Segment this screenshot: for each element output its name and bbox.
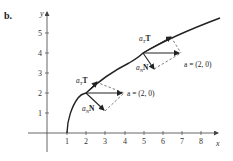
vector-group-point-2: aTT aNN a = (2, 0)	[136, 34, 212, 73]
y-axis-label: y	[39, 9, 44, 18]
acceleration-label-1: a = (2, 0)	[127, 89, 155, 98]
tangent-vector-1	[86, 82, 97, 93]
normal-label-1: aNN	[82, 104, 95, 114]
tangent-label-2: aTT	[139, 34, 151, 44]
vector-group-point-1: aTT aNN a = (2, 0)	[76, 76, 155, 114]
y-tick-2: 2	[38, 89, 42, 98]
x-tick-6: 6	[161, 137, 165, 146]
x-tick-1: 1	[65, 137, 69, 146]
tangent-label-1: aTT	[76, 76, 88, 86]
y-tick-3: 3	[38, 69, 42, 78]
panel-label: b.	[4, 10, 13, 21]
x-tick-3: 3	[103, 137, 107, 146]
x-tick-5: 5	[142, 137, 146, 146]
acceleration-label-2: a = (2, 0)	[184, 60, 212, 69]
y-tick-4: 4	[38, 49, 42, 58]
axes: y x 1 2 3 4 5 1 2 3 4	[28, 9, 220, 152]
diagram-canvas: b. y x 1 2 3 4 5 1	[0, 0, 233, 161]
x-tick-4: 4	[123, 137, 127, 146]
x-tick-2: 2	[84, 137, 88, 146]
parabola-curve	[67, 18, 220, 133]
y-tick-5: 5	[38, 29, 42, 38]
normal-label-2: aNN	[136, 63, 149, 73]
x-tick-7: 7	[180, 137, 184, 146]
x-axis-label: x	[215, 139, 220, 148]
x-tick-8: 8	[199, 137, 203, 146]
y-tick-1: 1	[38, 109, 42, 118]
